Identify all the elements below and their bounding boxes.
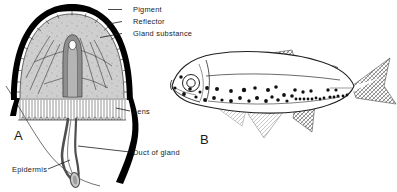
photophore — [220, 98, 223, 101]
photophore — [270, 95, 273, 98]
panel-b-letter: B — [200, 132, 209, 147]
photophore — [311, 98, 314, 101]
photophore — [346, 94, 349, 97]
photophore — [199, 91, 202, 94]
photophore — [264, 99, 268, 103]
photophore — [247, 99, 250, 102]
label-reflector: Reflector — [133, 17, 165, 26]
photophore — [334, 88, 337, 91]
photophore — [229, 99, 233, 103]
photophore — [309, 89, 312, 92]
photophore — [274, 85, 278, 89]
photophore — [182, 92, 186, 96]
label-lens: Lens — [133, 107, 150, 116]
photophore — [326, 88, 329, 91]
photophore — [194, 95, 197, 98]
photophore — [276, 98, 280, 102]
photophore — [282, 93, 286, 97]
photophore — [303, 98, 306, 101]
photophore — [315, 97, 318, 100]
photophore — [293, 88, 297, 92]
label-duct-of-gland: Duct of gland — [133, 148, 180, 157]
photophore — [229, 89, 233, 93]
label-epidermis: Epidermis — [12, 165, 47, 174]
figure-canvas: A Pigment Reflector Gland substance Lens… — [0, 0, 397, 192]
photophore — [205, 86, 209, 90]
photophore — [295, 98, 298, 101]
tube-lumen — [69, 40, 76, 49]
photophore — [238, 96, 242, 100]
photophore — [255, 96, 259, 100]
photophore — [203, 98, 207, 102]
photophore — [333, 96, 336, 99]
photophore — [242, 88, 246, 92]
photophore — [342, 95, 345, 98]
photophore — [307, 98, 310, 101]
photophore — [215, 87, 219, 91]
photophore — [212, 96, 216, 100]
photophore — [301, 90, 304, 93]
photophore — [328, 95, 331, 98]
label-gland-substance: Gland substance — [133, 29, 192, 38]
eye-pupil-ring — [187, 79, 195, 87]
figure-photophore-and-lanternfish: A Pigment Reflector Gland substance Lens… — [0, 0, 397, 192]
label-pigment: Pigment — [133, 5, 162, 14]
photophore — [179, 75, 182, 78]
photophore — [323, 97, 326, 100]
photophore — [253, 86, 257, 90]
photophore — [290, 94, 294, 98]
photophore — [285, 99, 288, 102]
photophore — [188, 87, 192, 91]
panel-a-letter: A — [14, 128, 23, 143]
photophore — [299, 98, 302, 101]
photophore — [266, 88, 270, 92]
photophore — [174, 87, 177, 90]
photophore — [337, 95, 340, 98]
photophore — [319, 98, 322, 101]
